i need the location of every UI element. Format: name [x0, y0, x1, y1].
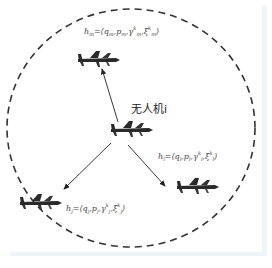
label-node-m: hm=⟨qm,pm,γkm,ξkm⟩	[84, 25, 159, 37]
diagram-graphics	[0, 0, 272, 268]
diagram-canvas: hm=⟨qm,pm,γkm,ξkm⟩ 无人机i hl=⟨ql,pl,γkl,ξk…	[0, 0, 272, 268]
edge-i-to-j	[64, 143, 111, 189]
drone-icon	[20, 194, 62, 210]
label-center-drone: 无人机i	[131, 100, 167, 116]
drone-icon	[177, 178, 219, 194]
drone-icon	[78, 51, 120, 67]
label-node-l: hl=⟨ql,pl,γkl,ξkl⟩	[158, 150, 217, 162]
drone-icon	[111, 121, 153, 137]
label-node-j: hj=⟨qj,pj,γkj,ξkj⟩	[66, 202, 125, 214]
edge-i-to-m	[102, 69, 118, 122]
